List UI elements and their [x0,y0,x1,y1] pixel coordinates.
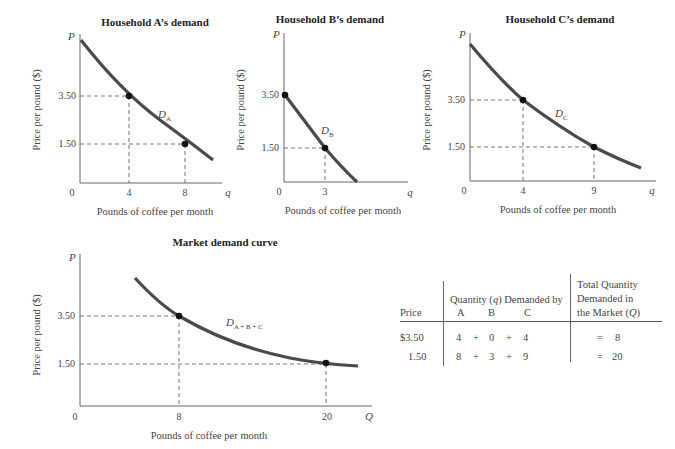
chart-title: Market demand curve [172,236,277,248]
axes [80,34,222,183]
y-axis-label: Price per pound ($) [31,69,43,151]
x-tick: 3 [323,186,328,197]
y-axis-variable: P [68,251,76,263]
y-tick: 3.50 [59,90,77,101]
row-c: 9 [523,351,528,362]
x-tick: 4 [521,185,526,196]
row-plus: + [473,351,479,362]
demand-figure: Household A’s demand P DA 3.50 1.50 0 4 … [0,0,675,449]
header-price: Price [400,307,422,318]
demand-curve [81,40,213,160]
row-price: 1.50 [408,351,426,362]
header-total-line3: the Market (Q) [577,307,640,318]
quantity-table: Price Quantity (q) Demanded by A B C Tot… [400,281,660,371]
x-axis-variable: q [649,184,655,196]
x-axis-label: Pounds of coffee per month [151,430,268,441]
row-a: 4 [456,332,461,343]
header-total-line2: Demanded in [577,293,633,304]
y-axis-variable: P [67,30,75,42]
demand-curve [135,278,358,366]
origin-label: 0 [70,187,75,198]
demand-curve [470,44,641,168]
curve-label: DB [320,124,334,139]
guide-lines [470,100,594,181]
x-axis-variable: Q [365,410,373,422]
row-eq: = [597,332,603,343]
row-total: 8 [615,332,620,343]
row-plus: + [506,351,512,362]
axes [470,33,656,181]
x-axis-label: Pounds of coffee per month [500,204,617,215]
header-quantity-group: Quantity (q) Demanded by [450,294,563,305]
header-col-a: A [457,307,465,318]
chart-title: Household A’s demand [101,16,209,28]
x-axis-variable: q [407,186,413,198]
origin-label: 0 [462,185,467,196]
demand-curve [285,95,357,182]
data-point [126,93,133,100]
y-tick: 1.50 [262,142,280,153]
row-plus: + [506,332,512,343]
x-tick: 20 [322,411,332,422]
origin-label: 0 [277,186,282,197]
axes [284,33,408,182]
x-axis-variable: q [225,186,231,198]
row-plus: + [473,332,479,343]
y-tick: 1.50 [59,138,77,149]
row-a: 8 [456,351,461,362]
data-point [182,141,189,148]
data-point [322,145,329,152]
curve-label: DA + B + C [225,316,263,331]
origin-label: 0 [73,411,78,422]
row-c: 4 [523,332,528,343]
guide-lines [80,96,185,183]
x-tick: 8 [177,411,182,422]
x-axis-label: Pounds of coffee per month [285,205,402,216]
y-tick: 1.50 [448,141,466,152]
y-axis-variable: P [458,28,466,40]
data-point [282,92,289,99]
column-divider [570,274,571,362]
column-divider [443,281,444,366]
row-eq: = [597,351,603,362]
y-axis-label: Price per pound ($) [235,69,247,151]
x-tick: 4 [127,187,132,198]
chart-market-demand: Market demand curve P DA + B + C 3.50 1.… [31,236,373,441]
axes [80,254,372,406]
header-col-b: B [488,307,495,318]
data-point [323,360,330,367]
y-axis-label: Price per pound ($) [421,69,433,151]
chart-household-a: Household A’s demand P DA 3.50 1.50 0 4 … [31,16,231,217]
data-point [591,144,598,151]
row-b: 3 [489,351,494,362]
y-tick: 3.50 [448,94,466,105]
row-price: $3.50 [400,332,424,343]
y-tick: 1.50 [58,358,76,369]
header-col-c: C [524,307,531,318]
data-point [520,97,527,104]
guide-lines [284,148,325,182]
chart-title: Household B’s demand [276,13,384,25]
x-axis-label: Pounds of coffee per month [97,206,214,217]
header-total-line1: Total Quantity [577,279,638,290]
chart-household-b: Household B’s demand P DB 3.50 1.50 0 3 … [235,13,413,216]
y-axis-variable: P [272,28,280,40]
y-axis-label: Price per pound ($) [31,294,43,376]
chart-title: Household C’s demand [505,13,614,25]
row-total: 20 [612,351,623,362]
y-tick: 3.50 [262,89,280,100]
header-rule [400,321,662,322]
curve-label: DC [554,107,568,122]
x-tick: 8 [183,187,188,198]
data-point [176,313,183,320]
chart-household-c: Household C’s demand P DC 3.50 1.50 0 4 … [421,13,656,215]
x-tick: 9 [592,185,597,196]
row-b: 0 [489,332,494,343]
y-tick: 3.50 [58,310,76,321]
